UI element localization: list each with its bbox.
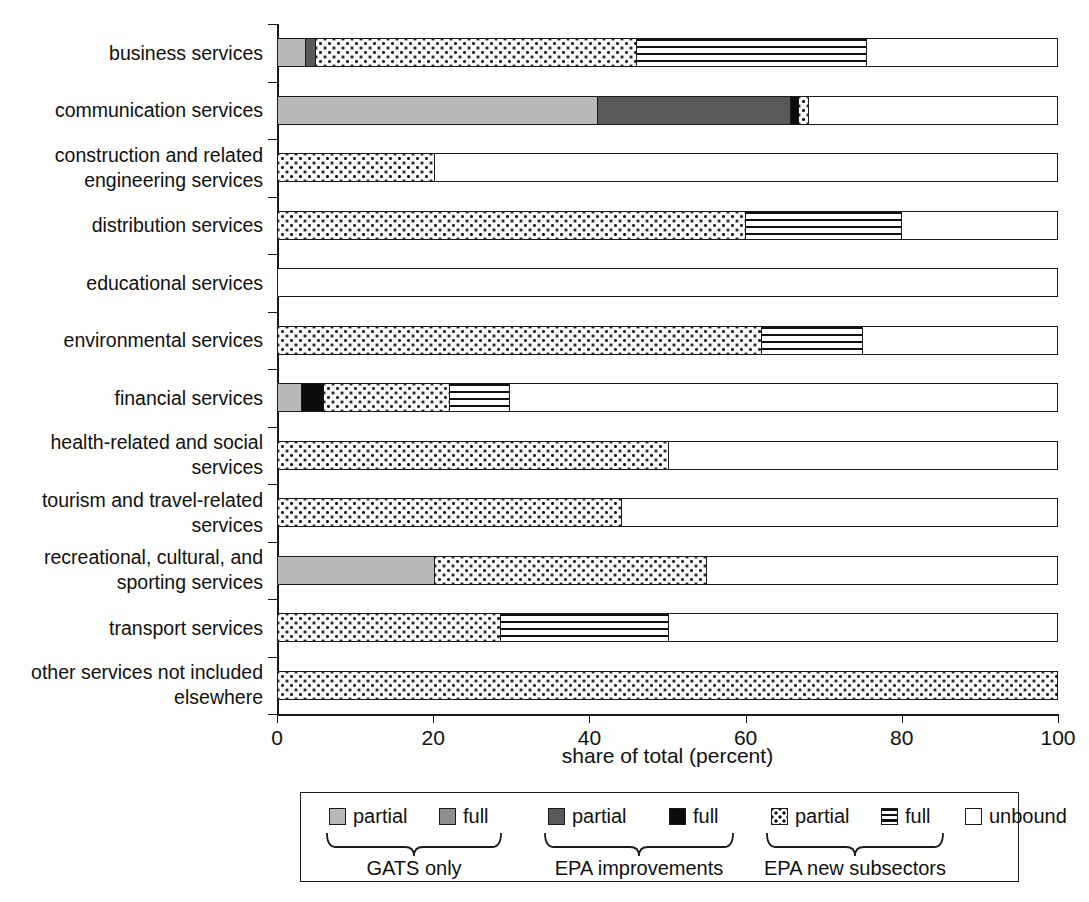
bar-segment-new_partial bbox=[278, 499, 621, 526]
category-label-line: recreational, cultural, and bbox=[15, 545, 263, 570]
y-axis-tick bbox=[268, 599, 277, 600]
category-label-line: financial services bbox=[15, 385, 263, 410]
category-label-line: distribution services bbox=[15, 213, 263, 238]
bar-health-related-and-social-services bbox=[277, 441, 1058, 470]
x-axis-line bbox=[277, 714, 1058, 716]
bar-distribution-services bbox=[277, 211, 1058, 240]
category-label-line: services bbox=[15, 513, 263, 538]
bar-segment-gats_partial bbox=[278, 97, 597, 124]
bar-recreational-cultural-and-sporting-services bbox=[277, 556, 1058, 585]
bar-environmental-services bbox=[277, 326, 1058, 355]
category-label-environmental-services: environmental services bbox=[15, 328, 277, 353]
bar-segment-epa_full bbox=[301, 384, 323, 411]
bar-segment-epa_full bbox=[790, 97, 798, 124]
legend-group-label-epa-new-subsectors: EPA new subsectors bbox=[764, 857, 946, 880]
bar-transport-services bbox=[277, 613, 1058, 642]
legend-swatch-new-full-icon bbox=[881, 808, 898, 825]
bar-segment-unbound bbox=[621, 499, 1057, 526]
bar-segment-unbound bbox=[509, 384, 1057, 411]
y-axis-tick bbox=[268, 254, 277, 255]
category-label-tourism-and-travel-related-services: tourism and travel-relatedservices bbox=[15, 488, 277, 538]
legend-item-label: partial bbox=[353, 805, 407, 828]
legend-item-gats-full[interactable]: full bbox=[439, 805, 489, 828]
bar-segment-new_partial bbox=[278, 327, 761, 354]
category-label-line: services bbox=[15, 455, 263, 480]
bar-segment-gats_partial bbox=[278, 39, 305, 66]
bar-other-services-not-included-elsewhere bbox=[277, 671, 1058, 700]
bar-segment-gats_partial bbox=[278, 557, 434, 584]
category-label-other-services-not-included-elsewhere: other services not includedelsewhere bbox=[15, 660, 277, 710]
bar-segment-unbound bbox=[668, 614, 1058, 641]
bar-segment-new_full bbox=[636, 39, 866, 66]
bar-segment-new_partial bbox=[798, 97, 808, 124]
bar-financial-services bbox=[277, 383, 1058, 412]
legend-swatch-epa-partial-icon bbox=[548, 808, 565, 825]
category-label-line: business services bbox=[15, 40, 263, 65]
x-axis-tick bbox=[277, 714, 278, 723]
y-axis-line bbox=[277, 24, 279, 714]
category-label-business-services: business services bbox=[15, 40, 277, 65]
bar-segment-unbound bbox=[434, 154, 1057, 181]
bar-segment-unbound bbox=[862, 327, 1057, 354]
bar-segment-new_full bbox=[761, 327, 862, 354]
category-label-health-related-and-social-services: health-related and socialservices bbox=[15, 430, 277, 480]
legend-swatch-gats-partial-icon bbox=[329, 808, 346, 825]
bar-educational-services bbox=[277, 268, 1058, 297]
bar-segment-new_full bbox=[449, 384, 509, 411]
legend-item-epa-partial[interactable]: partial bbox=[548, 805, 626, 828]
y-axis-tick bbox=[268, 82, 277, 83]
bar-segment-new_partial bbox=[278, 614, 500, 641]
y-axis-tick bbox=[268, 24, 277, 25]
legend-group-label-epa-improvements: EPA improvements bbox=[555, 857, 724, 880]
plot-area: 020406080100 bbox=[277, 24, 1058, 714]
legend-item-epa-full[interactable]: full bbox=[669, 805, 719, 828]
legend-item-label: partial bbox=[572, 805, 626, 828]
bar-segment-unbound bbox=[706, 557, 1057, 584]
legend-item-unbound[interactable]: unbound bbox=[965, 805, 1067, 828]
legend-item-label: full bbox=[693, 805, 719, 828]
legend-group-label-gats-only: GATS only bbox=[366, 857, 461, 880]
x-axis-tick bbox=[433, 714, 434, 723]
bar-segment-new_partial bbox=[315, 39, 637, 66]
bar-segment-unbound bbox=[808, 97, 1057, 124]
legend-item-gats-partial[interactable]: partial bbox=[329, 805, 407, 828]
chart-page: 020406080100 share of total (percent) pa… bbox=[0, 0, 1089, 902]
legend-item-new-partial[interactable]: partial bbox=[771, 805, 849, 828]
category-label-educational-services: educational services bbox=[15, 270, 277, 295]
category-label-line: educational services bbox=[15, 270, 263, 295]
bar-segment-unbound bbox=[866, 39, 1057, 66]
legend-swatch-new-partial-icon bbox=[771, 808, 788, 825]
legend-swatch-unbound-icon bbox=[965, 808, 982, 825]
category-label-transport-services: transport services bbox=[15, 615, 277, 640]
category-label-line: tourism and travel-related bbox=[15, 488, 263, 513]
x-axis-tick bbox=[902, 714, 903, 723]
legend-swatch-gats-full-icon bbox=[439, 808, 456, 825]
bar-segment-unbound bbox=[668, 442, 1058, 469]
x-axis-tick bbox=[1058, 714, 1059, 723]
y-axis-tick bbox=[268, 197, 277, 198]
category-label-line: other services not included bbox=[15, 660, 263, 685]
category-label-line: transport services bbox=[15, 615, 263, 640]
category-label-construction-and-related-engineering-services: construction and relatedengineering serv… bbox=[15, 143, 277, 193]
bar-segment-new_partial bbox=[278, 442, 668, 469]
y-axis-tick bbox=[268, 714, 277, 715]
y-axis-tick bbox=[268, 657, 277, 658]
category-label-line: communication services bbox=[15, 98, 263, 123]
legend-item-label: full bbox=[905, 805, 931, 828]
category-label-communication-services: communication services bbox=[15, 98, 277, 123]
legend-item-new-full[interactable]: full bbox=[881, 805, 931, 828]
bar-tourism-and-travel-related-services bbox=[277, 498, 1058, 527]
x-axis-tick bbox=[746, 714, 747, 723]
bar-segment-gats_partial bbox=[278, 384, 301, 411]
bar-segment-unbound bbox=[278, 269, 1057, 296]
category-label-line: elsewhere bbox=[15, 685, 263, 710]
y-axis-tick bbox=[268, 542, 277, 543]
category-label-line: health-related and social bbox=[15, 430, 263, 455]
bar-segment-new_partial bbox=[278, 212, 745, 239]
category-label-recreational-cultural-and-sporting-services: recreational, cultural, andsporting serv… bbox=[15, 545, 277, 595]
category-label-line: construction and related bbox=[15, 143, 263, 168]
category-label-line: engineering services bbox=[15, 168, 263, 193]
legend-item-label: unbound bbox=[989, 805, 1067, 828]
bar-segment-new_partial bbox=[278, 672, 1057, 699]
y-axis-tick bbox=[268, 369, 277, 370]
